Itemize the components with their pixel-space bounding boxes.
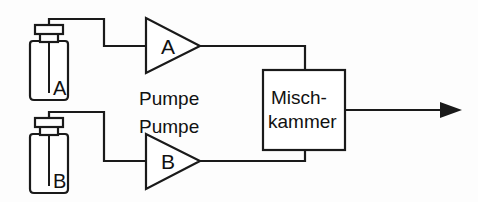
mixing-chamber-line-2: kammer — [268, 111, 337, 132]
tube-pump-b-to-chamber — [200, 150, 305, 161]
pump-b[interactable]: B — [146, 134, 200, 189]
pump-a-symbol-label: A — [161, 35, 175, 58]
pump-a[interactable]: A — [146, 18, 200, 73]
pump-a-caption: Pumpe — [139, 88, 199, 109]
tube-pump-a-to-chamber — [200, 46, 305, 70]
bottle-a-label: A — [53, 77, 67, 99]
mixing-chamber-box — [263, 70, 345, 150]
bottle-b-label: B — [53, 170, 66, 192]
output-arrow — [345, 102, 462, 118]
bottle-a-cap — [35, 25, 63, 34]
reagent-bottle-a[interactable]: A — [30, 25, 68, 100]
mixing-chamber[interactable]: Misch- kammer — [263, 70, 345, 150]
flow-diagram-canvas: A B A Pumpe Pumpe B — [0, 0, 478, 202]
bottle-b-cap — [35, 118, 63, 127]
output-arrow-head — [440, 102, 462, 118]
reagent-bottle-b[interactable]: B — [30, 118, 68, 193]
schematic-svg: A B A Pumpe Pumpe B — [0, 0, 478, 202]
pump-b-symbol-label: B — [161, 150, 175, 173]
mixing-chamber-line-1: Misch- — [271, 87, 327, 108]
